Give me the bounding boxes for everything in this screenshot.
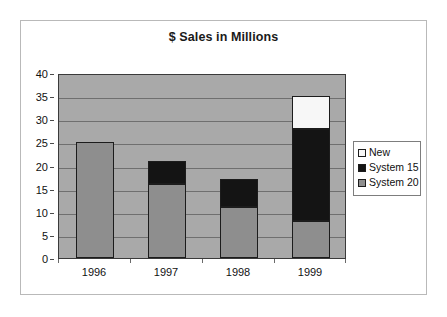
y-tick-mark — [50, 167, 54, 168]
y-tick-mark — [50, 259, 54, 260]
x-axis: 1996199719981999 — [58, 261, 346, 281]
y-tick-label: 35 — [36, 91, 48, 103]
bar-segment-system-15-1999 — [292, 129, 330, 222]
legend-item-system-20[interactable]: System 20 — [358, 176, 416, 189]
y-tick-label: 30 — [36, 114, 48, 126]
chart-frame: $ Sales in Millions 0510152025303540 199… — [20, 20, 427, 295]
bar-column-1998 — [220, 73, 258, 258]
x-tick-mark — [58, 259, 59, 263]
bar-column-1997 — [148, 73, 186, 258]
x-tick-mark — [202, 259, 203, 263]
y-tick-mark — [50, 213, 54, 214]
y-tick-label: 0 — [42, 253, 48, 265]
y-tick-mark — [50, 74, 54, 75]
legend-swatch-icon — [358, 179, 366, 187]
bar-column-1996 — [76, 73, 114, 258]
y-tick-mark — [50, 190, 54, 191]
bar-segment-system-20-1996 — [76, 142, 114, 258]
y-tick-label: 25 — [36, 137, 48, 149]
y-tick-mark — [50, 97, 54, 98]
bar-segment-system-15-1997 — [148, 161, 186, 184]
x-tick-label: 1999 — [298, 266, 322, 278]
chart-title: $ Sales in Millions — [21, 30, 426, 44]
y-tick-label: 20 — [36, 161, 48, 173]
x-tick-label: 1996 — [82, 266, 106, 278]
legend-item-label: System 20 — [369, 177, 419, 188]
bar-segment-system-20-1999 — [292, 221, 330, 258]
legend-swatch-icon — [358, 149, 366, 157]
plot-area — [58, 74, 346, 259]
x-tick-label: 1998 — [226, 266, 250, 278]
y-tick-label: 5 — [42, 230, 48, 242]
y-tick-mark — [50, 236, 54, 237]
bar-segment-system-20-1997 — [148, 184, 186, 258]
x-tick-mark — [345, 259, 346, 263]
x-tick-label: 1997 — [154, 266, 178, 278]
bar-segment-system-15-1998 — [220, 179, 258, 207]
bar-segment-system-20-1998 — [220, 207, 258, 258]
x-tick-mark — [274, 259, 275, 263]
bar-segment-new-1999 — [292, 96, 330, 128]
legend-item-new[interactable]: New — [358, 146, 416, 159]
y-tick-label: 10 — [36, 207, 48, 219]
y-tick-mark — [50, 143, 54, 144]
y-tick-label: 40 — [36, 68, 48, 80]
legend-item-system-15[interactable]: System 15 — [358, 161, 416, 174]
chart-legend: NewSystem 15System 20 — [353, 141, 421, 196]
y-tick-mark — [50, 120, 54, 121]
y-axis: 0510152025303540 — [21, 74, 54, 259]
legend-item-label: System 15 — [369, 162, 419, 173]
legend-swatch-icon — [358, 164, 366, 172]
legend-item-label: New — [369, 147, 390, 158]
y-tick-label: 15 — [36, 184, 48, 196]
x-tick-mark — [130, 259, 131, 263]
bar-column-1999 — [292, 73, 330, 258]
